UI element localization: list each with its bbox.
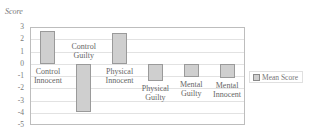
y-tick-label: -5 (0, 121, 24, 129)
legend-label: Mean Score (262, 73, 298, 82)
y-tick-label: 1 (0, 48, 24, 56)
legend-swatch (253, 74, 260, 81)
legend: Mean Score (249, 71, 303, 83)
bar (76, 64, 91, 112)
category-label: Mental Innocent (205, 81, 249, 99)
bar (184, 64, 199, 77)
gridline (31, 64, 244, 65)
y-tick-label: -3 (0, 97, 24, 105)
y-tick-label: 2 (0, 35, 24, 43)
y-tick-label: -2 (0, 84, 24, 92)
bar (112, 33, 127, 64)
category-label: Control Innocent (26, 67, 70, 85)
y-tick-label: -4 (0, 109, 24, 117)
category-label: Control Guilty (62, 42, 106, 60)
y-axis-label: Score (5, 7, 23, 16)
y-tick-label: 3 (0, 23, 24, 31)
bar (148, 64, 163, 81)
bar (40, 31, 55, 64)
gridline (31, 39, 244, 40)
bar (220, 64, 235, 79)
category-label: Physical Innocent (98, 67, 142, 85)
y-tick-label: -1 (0, 72, 24, 80)
gridline (31, 113, 244, 114)
y-tick-label: 0 (0, 60, 24, 68)
